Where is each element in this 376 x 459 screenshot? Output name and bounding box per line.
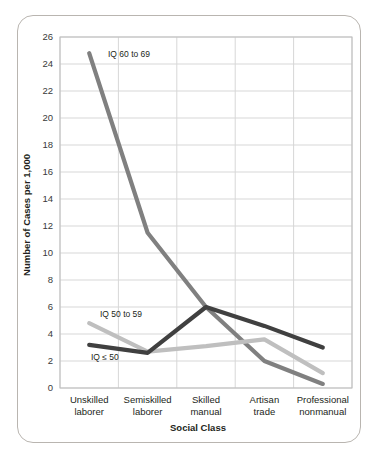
series-annotation: IQ ≤ 50 <box>91 352 119 362</box>
x-category-label: laborer <box>133 406 163 417</box>
y-tick-label: 0 <box>48 382 53 393</box>
x-category-label: nonmanual <box>299 406 346 417</box>
series-annotation: IQ 50 to 59 <box>100 309 142 319</box>
y-tick-label: 20 <box>42 112 53 123</box>
y-tick-label: 2 <box>48 355 53 366</box>
y-tick-label: 24 <box>42 58 53 69</box>
line-chart: 02468101214161820222426 Unskilledlaborer… <box>0 0 376 459</box>
x-category-label: Artisan <box>250 394 280 405</box>
chart-series-annotations: IQ 60 to 69IQ 50 to 59IQ ≤ 50 <box>91 49 150 362</box>
y-tick-label: 26 <box>42 31 53 42</box>
x-axis-title: Social Class <box>170 422 226 433</box>
y-tick-label: 18 <box>42 139 53 150</box>
y-tick-label: 4 <box>48 328 53 339</box>
chart-gridlines <box>60 37 352 388</box>
y-tick-label: 8 <box>48 274 53 285</box>
y-axis-tick-labels: 02468101214161820222426 <box>42 31 53 393</box>
y-tick-label: 14 <box>42 193 53 204</box>
y-tick-label: 22 <box>42 85 53 96</box>
chart-svg: 02468101214161820222426 Unskilledlaborer… <box>0 0 376 459</box>
x-category-label: manual <box>190 406 221 417</box>
x-category-label: laborer <box>74 406 104 417</box>
x-category-label: Professional <box>297 394 349 405</box>
x-axis-category-labels: UnskilledlaborerSemiskilledlaborerSkille… <box>70 394 349 417</box>
y-axis-title: Number of Cases per 1,000 <box>21 154 32 276</box>
y-tick-label: 10 <box>42 247 53 258</box>
x-category-label: Unskilled <box>70 394 109 405</box>
x-category-label: trade <box>254 406 276 417</box>
y-tick-label: 16 <box>42 166 53 177</box>
series-annotation: IQ 60 to 69 <box>108 49 150 59</box>
x-category-label: Skilled <box>192 394 220 405</box>
y-tick-label: 6 <box>48 301 53 312</box>
plot-frame <box>60 37 352 388</box>
y-tick-label: 12 <box>42 220 53 231</box>
x-category-label: Semiskilled <box>124 394 172 405</box>
